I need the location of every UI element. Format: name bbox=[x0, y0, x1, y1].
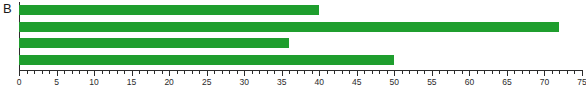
bar-chart-figure: B 051015202530354045505560657075 bbox=[0, 0, 586, 91]
x-tick-minor bbox=[199, 70, 200, 74]
bar-row bbox=[19, 55, 394, 65]
x-tick-major bbox=[57, 70, 58, 76]
bar bbox=[19, 5, 319, 15]
x-tick-minor bbox=[312, 70, 313, 74]
x-tick-minor bbox=[387, 70, 388, 74]
x-tick-minor bbox=[484, 70, 485, 74]
x-tick-major bbox=[544, 70, 545, 76]
x-tick-minor bbox=[447, 70, 448, 74]
x-tick-label: 25 bbox=[202, 78, 211, 87]
x-tick-minor bbox=[559, 70, 560, 74]
x-tick-minor bbox=[34, 70, 35, 74]
x-tick-major bbox=[94, 70, 95, 76]
x-tick-minor bbox=[424, 70, 425, 74]
x-tick-major bbox=[432, 70, 433, 76]
x-tick-label: 70 bbox=[540, 78, 549, 87]
x-tick-minor bbox=[154, 70, 155, 74]
x-tick-minor bbox=[514, 70, 515, 74]
x-tick-label: 30 bbox=[239, 78, 248, 87]
x-tick-minor bbox=[162, 70, 163, 74]
x-tick-minor bbox=[364, 70, 365, 74]
x-tick-minor bbox=[184, 70, 185, 74]
x-tick-label: 15 bbox=[127, 78, 136, 87]
panel-label: B bbox=[3, 2, 12, 15]
x-tick-minor bbox=[477, 70, 478, 74]
x-tick-minor bbox=[124, 70, 125, 74]
x-tick-major bbox=[469, 70, 470, 76]
x-tick-minor bbox=[259, 70, 260, 74]
x-tick-minor bbox=[214, 70, 215, 74]
bar-row bbox=[19, 38, 289, 48]
x-axis: 051015202530354045505560657075 bbox=[19, 70, 586, 91]
x-tick-minor bbox=[297, 70, 298, 74]
x-tick-major bbox=[169, 70, 170, 76]
x-tick-minor bbox=[87, 70, 88, 74]
x-tick-minor bbox=[117, 70, 118, 74]
x-tick-label: 0 bbox=[17, 78, 22, 87]
x-tick-minor bbox=[574, 70, 575, 74]
x-tick-label: 20 bbox=[164, 78, 173, 87]
x-tick-label: 10 bbox=[89, 78, 98, 87]
x-tick-minor bbox=[552, 70, 553, 74]
x-tick-major bbox=[319, 70, 320, 76]
x-tick-minor bbox=[289, 70, 290, 74]
x-tick-minor bbox=[349, 70, 350, 74]
x-tick-minor bbox=[439, 70, 440, 74]
x-tick-minor bbox=[42, 70, 43, 74]
x-tick-minor bbox=[109, 70, 110, 74]
x-tick-minor bbox=[274, 70, 275, 74]
x-tick-minor bbox=[409, 70, 410, 74]
x-tick-minor bbox=[139, 70, 140, 74]
x-tick-minor bbox=[304, 70, 305, 74]
x-tick-minor bbox=[334, 70, 335, 74]
x-tick-minor bbox=[222, 70, 223, 74]
x-tick-minor bbox=[537, 70, 538, 74]
x-tick-major bbox=[394, 70, 395, 76]
x-tick-minor bbox=[327, 70, 328, 74]
bar bbox=[19, 38, 289, 48]
x-tick-minor bbox=[79, 70, 80, 74]
bar-row bbox=[19, 5, 319, 15]
x-tick-minor bbox=[229, 70, 230, 74]
x-tick-label: 65 bbox=[502, 78, 511, 87]
x-tick-minor bbox=[499, 70, 500, 74]
x-tick-minor bbox=[522, 70, 523, 74]
x-tick-major bbox=[132, 70, 133, 76]
x-tick-label: 35 bbox=[277, 78, 286, 87]
x-tick-minor bbox=[454, 70, 455, 74]
x-tick-minor bbox=[529, 70, 530, 74]
x-tick-label: 60 bbox=[465, 78, 474, 87]
x-tick-label: 45 bbox=[352, 78, 361, 87]
x-tick-label: 50 bbox=[390, 78, 399, 87]
x-tick-label: 75 bbox=[577, 78, 586, 87]
x-tick-minor bbox=[492, 70, 493, 74]
x-tick-minor bbox=[417, 70, 418, 74]
x-tick-minor bbox=[252, 70, 253, 74]
x-tick-minor bbox=[147, 70, 148, 74]
x-tick-major bbox=[244, 70, 245, 76]
bar-series bbox=[19, 2, 582, 70]
x-tick-major bbox=[507, 70, 508, 76]
x-tick-label: 55 bbox=[427, 78, 436, 87]
x-tick-minor bbox=[27, 70, 28, 74]
bar-row bbox=[19, 22, 559, 32]
x-tick-label: 5 bbox=[54, 78, 59, 87]
x-tick-major bbox=[582, 70, 583, 76]
x-tick-minor bbox=[64, 70, 65, 74]
x-tick-minor bbox=[462, 70, 463, 74]
x-tick-minor bbox=[372, 70, 373, 74]
x-tick-major bbox=[19, 70, 20, 76]
x-tick-minor bbox=[192, 70, 193, 74]
bar bbox=[19, 55, 394, 65]
x-axis-line bbox=[19, 70, 582, 71]
x-tick-major bbox=[207, 70, 208, 76]
x-tick-minor bbox=[567, 70, 568, 74]
plot-area bbox=[19, 2, 582, 70]
bar bbox=[19, 22, 559, 32]
x-tick-label: 40 bbox=[315, 78, 324, 87]
x-tick-minor bbox=[379, 70, 380, 74]
x-tick-minor bbox=[102, 70, 103, 74]
x-tick-minor bbox=[177, 70, 178, 74]
x-tick-minor bbox=[49, 70, 50, 74]
x-tick-minor bbox=[237, 70, 238, 74]
